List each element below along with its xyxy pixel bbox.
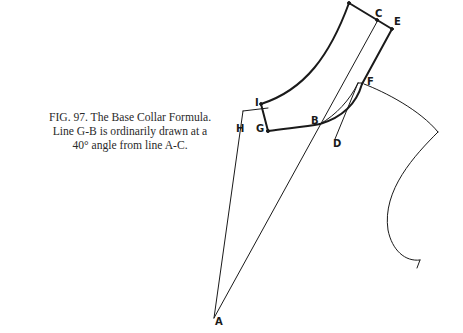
point-e-dot: [391, 28, 394, 31]
collar-top-edge: [349, 3, 392, 29]
point-c-dot: [376, 19, 379, 22]
label-e: E: [394, 16, 401, 27]
collar-outer-curve: [261, 3, 349, 104]
label-d: D: [333, 138, 341, 149]
armhole-end-tick: [417, 260, 420, 268]
label-c: C: [375, 8, 382, 19]
point-i-dot: [260, 103, 263, 106]
point-g-dot: [266, 129, 269, 132]
line-a-c: [214, 20, 378, 318]
shoulder-line: [364, 84, 438, 132]
label-h: H: [236, 123, 244, 134]
label-b: B: [311, 115, 319, 126]
neckline-b-f: [320, 84, 362, 124]
collar-pattern-diagram: C E F I H G B D A: [0, 0, 463, 333]
label-a: A: [215, 316, 223, 327]
label-f: F: [367, 76, 374, 87]
line-h-g: [243, 108, 268, 111]
line-a-h: [214, 111, 243, 318]
label-i: I: [255, 97, 259, 108]
label-g: G: [256, 123, 264, 134]
point-top-corner: [348, 2, 351, 5]
armhole-curve: [387, 132, 438, 260]
